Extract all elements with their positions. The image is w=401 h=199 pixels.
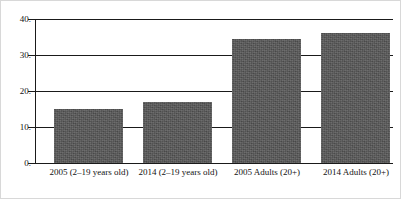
bars-layer <box>35 19 393 163</box>
x-axis-tick-labels: 2005 (2–19 years old) 2014 (2–19 years o… <box>35 167 393 183</box>
y-tick-mark-20 <box>28 91 35 92</box>
bar-chart: 40. 30. 20. 10. 0. 2005 (2–19 years old)… <box>0 0 401 199</box>
bar-2014-children <box>143 102 212 163</box>
y-tick-mark-40 <box>28 19 35 20</box>
bar-2005-children <box>54 109 123 163</box>
x-axis-line <box>35 163 393 164</box>
y-tick-mark-0 <box>28 163 35 164</box>
y-tick-mark-10 <box>28 127 35 128</box>
bar-2005-adults <box>232 39 301 163</box>
y-tick-mark-30 <box>28 55 35 56</box>
x-tick-label-2014-adults: 2014 Adults (20+) <box>300 167 401 178</box>
y-axis-tick-labels: 40. 30. 20. 10. 0. <box>1 1 31 199</box>
bar-2014-adults <box>321 33 390 163</box>
